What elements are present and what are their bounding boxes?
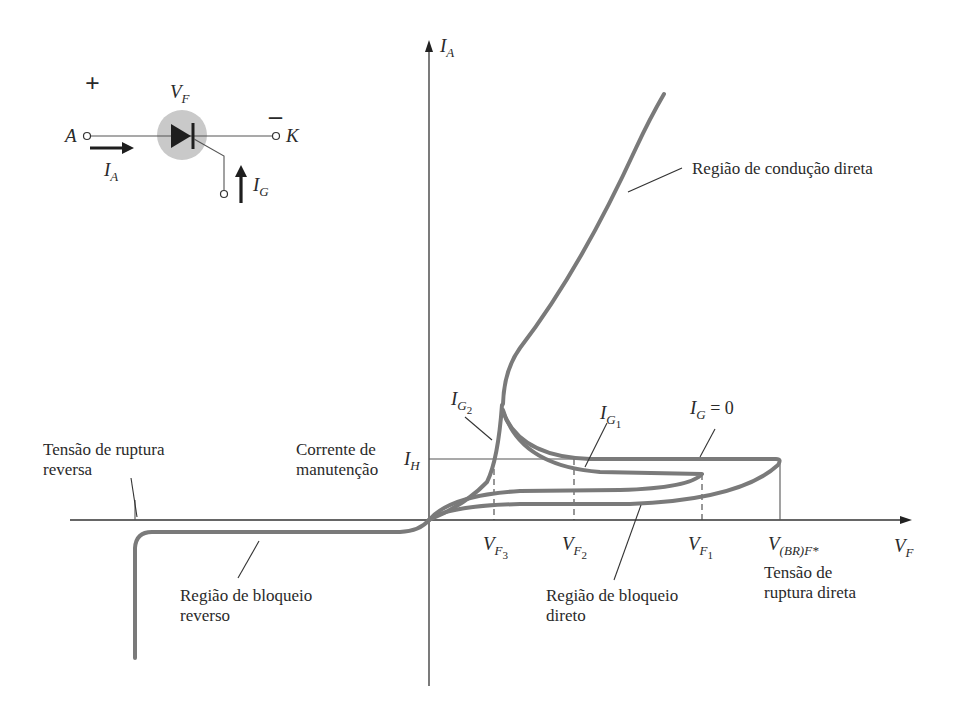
y-axis-label: IA <box>439 35 454 60</box>
forward-blocking-leader <box>614 505 641 580</box>
reverse-breakdown-annotation-line1: Tensão de ruptura <box>43 440 165 459</box>
vf-circuit-label: VF <box>170 81 191 106</box>
holding-current-annotation-line2: manutenção <box>296 460 378 479</box>
anode-current-label: IA <box>103 159 118 184</box>
reverse-blocking-annotation-line2: reverso <box>180 606 230 625</box>
cathode-terminal <box>273 133 280 140</box>
forward-conduction-annotation: Região de condução direta <box>692 159 873 178</box>
scr-circuit-symbol: + – VF A K IA IG <box>63 69 300 203</box>
reverse-breakdown-annotation-line2: reversa <box>43 460 93 479</box>
vf3-tick-label: VF3 <box>483 533 509 561</box>
anode-label: A <box>63 125 77 146</box>
anode-terminal <box>84 133 91 140</box>
minus-sign: – <box>268 101 283 130</box>
anode-current-arrowhead-icon <box>122 142 134 154</box>
plus-sign: + <box>85 69 100 98</box>
gate-terminal <box>221 191 228 198</box>
ih-label: IH <box>403 448 420 473</box>
reverse-breakdown-leader <box>131 478 137 517</box>
ig2-label: IG2 <box>450 388 472 416</box>
leader-lines <box>131 168 715 580</box>
forward-breakdown-annotation-line2: ruptura direta <box>764 583 856 602</box>
ig0-leader <box>700 429 715 457</box>
forward-blocking-annotation-line2: direto <box>546 606 586 625</box>
holding-current-annotation-line1: Corrente de <box>296 440 376 459</box>
x-axis-arrow-icon <box>900 516 912 524</box>
annotations: Região de condução direta Corrente de ma… <box>43 159 873 625</box>
gate-current-label: IG <box>252 174 269 199</box>
vbrf-tick-label: V(BR)F* <box>768 533 819 558</box>
ig2-leader <box>465 417 492 440</box>
ig1-label: IG1 <box>599 402 621 430</box>
ig0-label: IG = 0 <box>689 397 734 422</box>
x-axis-label: VF <box>894 535 915 560</box>
vf1-tick-label: VF1 <box>688 533 713 561</box>
scr-characteristic-figure: IA VF + – VF A K IA IG <box>0 0 966 714</box>
vf2-tick-label: VF2 <box>562 533 587 561</box>
ig2-curve <box>429 405 502 520</box>
forward-blocking-annotation-line1: Região de bloqueio <box>546 586 678 605</box>
forward-conduction-leader <box>628 168 682 192</box>
y-axis-arrow-icon <box>425 40 433 52</box>
x-tick-labels: VF3 VF2 VF1 V(BR)F* <box>483 533 819 561</box>
reverse-blocking-annotation-line1: Região de bloqueio <box>180 586 312 605</box>
forward-conduction-curve <box>503 94 664 404</box>
forward-breakdown-annotation-line1: Tensão de <box>764 563 832 582</box>
characteristic-curves <box>135 94 780 658</box>
cathode-label: K <box>285 125 300 146</box>
reverse-blocking-leader <box>238 541 259 578</box>
gate-current-arrowhead-icon <box>235 165 247 177</box>
